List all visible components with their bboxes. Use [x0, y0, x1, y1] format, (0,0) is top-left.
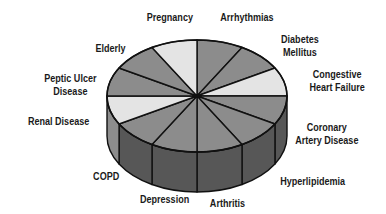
- slice-label-renal-disease: Renal Disease: [27, 115, 88, 128]
- slice-label-diabetes-mellitus: Diabetes Mellitus: [281, 33, 319, 59]
- slice-label-arrhythmias: Arrhythmias: [220, 11, 273, 24]
- slice-label-coronary-artery-disease: Coronary Artery Disease: [295, 121, 358, 147]
- slice-label-peptic-ulcer-disease: Peptic Ulcer Disease: [44, 72, 96, 98]
- slice-label-arthritis: Arthritis: [209, 197, 244, 210]
- pie-center-dot: [195, 94, 199, 98]
- slice-label-elderly: Elderly: [95, 42, 125, 55]
- slice-label-pregnancy: Pregnancy: [147, 11, 193, 24]
- slice-label-hyperlipidemia: Hyperlipidemia: [280, 175, 345, 188]
- slice-label-copd: COPD: [93, 170, 119, 183]
- slice-label-depression: Depression: [140, 193, 189, 206]
- slice-label-congestive-heart-failure: Congestive Heart Failure: [309, 68, 364, 94]
